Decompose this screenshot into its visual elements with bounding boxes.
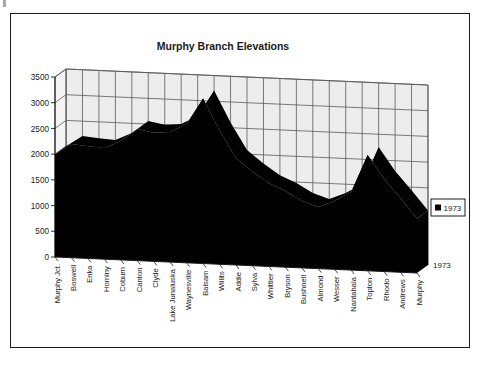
x-axis-category-label: Bushnell (299, 275, 308, 304)
x-axis-category-label: Boswell (69, 264, 78, 290)
x-axis-category-label: Murphy (415, 280, 424, 306)
x-axis-category-label: Clyde (151, 268, 160, 287)
y-axis-tick-label: 1500 (31, 176, 50, 185)
chart-frame: 0500100015002000250030003500Murphy Jct.B… (10, 13, 470, 348)
x-axis-category-label: Waynesville (184, 270, 193, 310)
y-axis-tick-label: 2500 (31, 125, 50, 134)
x-axis-category-label: Bryson (283, 274, 292, 298)
legend-label-1973: 1973 (444, 204, 462, 213)
area-end-cap (417, 210, 428, 273)
x-axis-category-label: Addie (234, 272, 243, 291)
x-axis-category-label: Coburn (118, 267, 127, 292)
x-axis-category-label: Enka (85, 265, 94, 283)
x-axis-category-label: Murphy Jct. (53, 264, 62, 303)
chart-title: Murphy Branch Elevations (157, 40, 290, 52)
x-axis-tick (417, 273, 420, 277)
x-axis-category-label: Hominy (102, 266, 111, 292)
scan-speck (3, 0, 6, 7)
x-axis-category-label: Sylva (250, 272, 259, 291)
chart-canvas: 0500100015002000250030003500Murphy Jct.B… (11, 14, 468, 346)
z-axis-label: 1973 (433, 261, 451, 270)
x-axis-category-label: Whittier (266, 273, 275, 299)
y-axis-tick-label: 2000 (31, 150, 50, 159)
x-axis-category-label: Nantahala (349, 276, 358, 311)
x-axis-category-label: Balsam (201, 271, 210, 296)
y-axis-tick-label: 500 (35, 227, 49, 236)
x-axis-category-label: Almond (316, 276, 325, 302)
scanned-page: 0500100015002000250030003500Murphy Jct.B… (0, 0, 482, 365)
x-axis-category-label: Lake Junaluska (168, 268, 177, 322)
x-axis-category-label: Canton (135, 268, 144, 293)
chart-3d-scene: 0500100015002000250030003500Murphy Jct.B… (31, 69, 452, 322)
y-axis-tick-label: 0 (44, 253, 49, 262)
chart-legend[interactable]: 1973 (431, 199, 465, 216)
x-axis-category-label: Willits (217, 271, 226, 291)
legend-marker-1973 (435, 205, 441, 211)
x-axis-category-label: Wesser (332, 276, 341, 302)
x-axis-category-label: Andrews (398, 279, 407, 309)
y-axis-tick-label: 1000 (31, 202, 50, 211)
x-axis-category-label: Rhodo (382, 279, 391, 301)
x-axis-category-label: Topton (365, 278, 374, 301)
y-axis-tick-label: 3500 (31, 73, 50, 82)
y-axis-tick-label: 3000 (31, 99, 50, 108)
